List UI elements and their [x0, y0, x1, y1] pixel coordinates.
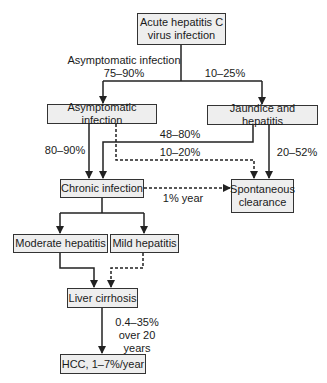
label-jaundice-to-chronic: 48–80% [155, 128, 205, 141]
label-chronic-to-clearance: 1% year [160, 192, 206, 205]
node-spontaneous-clearance: Spontaneous clearance [231, 179, 294, 213]
node-hcc: HCC, 1–7%/year [60, 354, 146, 374]
node-mild-hepatitis: Mild hepatitis [110, 234, 179, 253]
node-asymptomatic-infection: Asymptomatic infection [47, 104, 157, 124]
edge-mild-to-cirrhosis [111, 253, 143, 287]
edge-moderate-to-cirrhosis [60, 253, 94, 287]
node-acute-hcv-infection: Acute hepatitis C virus infection [137, 13, 226, 45]
label-asymptomatic-to-clearance: 10–20% [155, 146, 205, 159]
node-jaundice-and-hepatitis: Jaundice and hepatitis [207, 105, 318, 125]
node-liver-cirrhosis: Liver cirrhosis [67, 288, 138, 308]
label-acute-to-jaundice: 10–25% [200, 67, 250, 80]
label-cirrhosis-to-hcc: 0.4–35% over 20 years [104, 316, 170, 355]
label-jaundice-to-clearance: 20–52% [272, 146, 322, 159]
hcv-natural-history-flowchart: Acute hepatitis C virus infection Asympt… [0, 0, 327, 383]
label-asymptomatic-to-chronic: 80–90% [42, 144, 88, 157]
node-chronic-infection: Chronic infection [60, 179, 144, 198]
label-acute-to-asymptomatic: Asymptomatic infection 75–90% [64, 54, 184, 80]
node-moderate-hepatitis: Moderate hepatitis [13, 234, 108, 253]
